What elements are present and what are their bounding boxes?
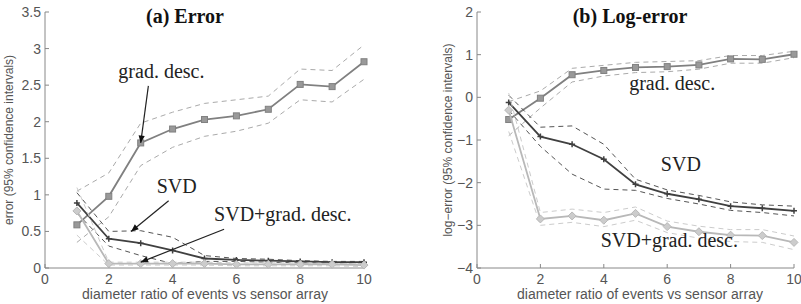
ci-upper-line bbox=[77, 188, 364, 264]
square-marker-icon bbox=[170, 126, 176, 132]
x-tick-label: 8 bbox=[727, 271, 735, 287]
x-tick-label: 6 bbox=[233, 271, 241, 287]
plus-marker-icon bbox=[759, 205, 765, 211]
square-marker-icon bbox=[361, 59, 367, 65]
square-marker-icon bbox=[759, 56, 765, 62]
mean-line bbox=[77, 62, 364, 225]
x-tick-labels: 0246810 bbox=[473, 264, 801, 287]
square-marker-icon bbox=[297, 81, 303, 87]
y-tick-label: 0 bbox=[33, 260, 41, 276]
y-tick-label: 2.5 bbox=[22, 77, 42, 93]
diamond-marker-icon bbox=[105, 260, 113, 268]
series-svd-grad-desc bbox=[73, 188, 368, 270]
x-tick-labels: 0246810 bbox=[41, 264, 372, 287]
y-tick-label: −2 bbox=[457, 175, 473, 191]
annotation-label: SVD bbox=[157, 175, 197, 197]
square-marker-icon bbox=[106, 193, 112, 199]
square-marker-icon bbox=[601, 67, 607, 73]
diamond-marker-icon bbox=[201, 260, 209, 268]
diamond-marker-icon bbox=[568, 212, 576, 220]
annotation-label: SVD+grad. desc. bbox=[601, 229, 738, 252]
square-marker-icon bbox=[569, 72, 575, 78]
x-tick-label: 8 bbox=[296, 271, 304, 287]
chart-error: 00.511.522.533.5 0246810 grad. desc.SVDS… bbox=[2, 4, 372, 302]
annotation-label: SVD bbox=[661, 153, 701, 175]
figure: 00.511.522.533.5 0246810 grad. desc.SVDS… bbox=[0, 0, 801, 304]
y-tick-label: −4 bbox=[457, 260, 473, 276]
plus-marker-icon bbox=[138, 240, 144, 246]
y-tick-label: −1 bbox=[457, 132, 473, 148]
diamond-marker-icon bbox=[600, 216, 608, 224]
square-marker-icon bbox=[633, 64, 639, 70]
y-axis-label: log−error (95% confidence intervals) bbox=[441, 43, 455, 236]
plot-series bbox=[73, 45, 368, 269]
plus-marker-icon bbox=[791, 208, 797, 214]
square-marker-icon bbox=[233, 113, 239, 119]
ci-upper-line bbox=[509, 93, 794, 236]
diamond-marker-icon bbox=[169, 260, 177, 268]
annotation-label: SVD+grad. desc. bbox=[214, 203, 351, 226]
y-tick-label: 1 bbox=[33, 187, 41, 203]
annotation-label: grad. desc. bbox=[118, 60, 204, 83]
square-marker-icon bbox=[202, 117, 208, 123]
diamond-marker-icon bbox=[790, 238, 798, 246]
chart-log-error: −4−3−2−1012 0246810 grad. desc.SVDSVD+gr… bbox=[441, 4, 801, 302]
x-tick-label: 0 bbox=[41, 271, 49, 287]
y-tick-label: 2 bbox=[33, 114, 41, 130]
annotation-label: grad. desc. bbox=[629, 72, 715, 95]
plus-marker-icon bbox=[569, 141, 575, 147]
x-tick-label: 2 bbox=[537, 271, 545, 287]
y-tick-label: 2 bbox=[465, 4, 473, 20]
square-marker-icon bbox=[537, 95, 543, 101]
y-tick-label: −3 bbox=[457, 217, 473, 233]
square-marker-icon bbox=[664, 64, 670, 70]
y-tick-label: 0.5 bbox=[22, 223, 42, 239]
square-marker-icon bbox=[329, 84, 335, 90]
arrow-line bbox=[141, 86, 149, 143]
series-svd-grad-desc bbox=[505, 93, 798, 250]
y-tick-label: 1.5 bbox=[22, 150, 42, 166]
y-tick-label: 3 bbox=[33, 41, 41, 57]
diamond-marker-icon bbox=[73, 207, 81, 215]
x-tick-label: 4 bbox=[600, 271, 608, 287]
mean-line bbox=[509, 110, 794, 242]
square-marker-icon bbox=[265, 106, 271, 112]
x-tick-label: 10 bbox=[356, 271, 372, 287]
x-axis-label: diameter ratio of events vs sensor array bbox=[82, 286, 328, 302]
x-tick-label: 10 bbox=[786, 271, 801, 287]
ci-lower-line bbox=[509, 58, 794, 136]
series-svd bbox=[506, 95, 797, 216]
x-tick-label: 2 bbox=[105, 271, 113, 287]
square-marker-icon bbox=[728, 56, 734, 62]
plus-marker-icon bbox=[696, 196, 702, 202]
diamond-marker-icon bbox=[632, 209, 640, 217]
y-axis-label: error (95% confidence intervals) bbox=[2, 55, 16, 225]
arrowhead-icon bbox=[141, 257, 149, 263]
chart-title: (a) Error bbox=[146, 5, 224, 28]
plus-marker-icon bbox=[728, 203, 734, 209]
x-tick-label: 6 bbox=[663, 271, 671, 287]
diamond-marker-icon bbox=[536, 215, 544, 223]
ci-lower-line bbox=[509, 110, 794, 216]
square-marker-icon bbox=[74, 222, 80, 228]
y-tick-label: 1 bbox=[465, 47, 473, 63]
chart-title: (b) Log-error bbox=[573, 5, 688, 28]
y-tick-label: 0 bbox=[465, 89, 473, 105]
x-axis-label: diameter ratio of events vs sensor array bbox=[517, 286, 763, 302]
plus-marker-icon bbox=[664, 191, 670, 197]
x-tick-label: 4 bbox=[169, 271, 177, 287]
x-tick-label: 0 bbox=[473, 271, 481, 287]
y-tick-label: 3.5 bbox=[22, 4, 42, 20]
square-marker-icon bbox=[696, 62, 702, 68]
square-marker-icon bbox=[791, 51, 797, 57]
diamond-marker-icon bbox=[758, 232, 766, 240]
annotations: grad. desc.SVDSVD+grad. desc. bbox=[118, 60, 351, 263]
